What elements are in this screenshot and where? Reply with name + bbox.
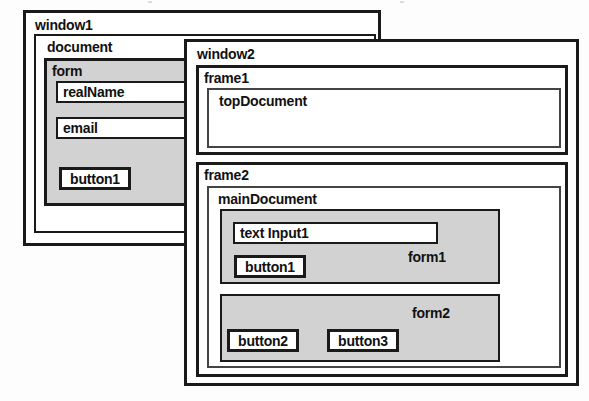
form2-button3[interactable]: button3 [327, 329, 399, 352]
scan-speckle [148, 1, 152, 3]
form2-button3-label: button3 [330, 333, 396, 349]
email-input-label: email [63, 120, 98, 136]
document-label: document [47, 39, 112, 55]
form1-button1[interactable]: button1 [234, 255, 306, 278]
form2-button2[interactable]: button2 [227, 329, 299, 352]
form1-label: form1 [408, 249, 446, 265]
form2-button2-label: button2 [230, 333, 296, 349]
text-input1-label: text Input1 [240, 225, 309, 241]
realname-input-label: realName [63, 84, 124, 100]
frame2-box[interactable]: frame2 mainDocument form1 text Input1 bu… [196, 162, 568, 377]
form1-button1-label: button1 [237, 259, 303, 275]
form1-box[interactable]: form1 text Input1 button1 [220, 209, 500, 284]
frame1-label: frame1 [204, 70, 249, 86]
frame1-box[interactable]: frame1 topDocument [196, 65, 568, 155]
form-label: form [52, 63, 82, 79]
form2-box[interactable]: form2 button2 button3 [220, 294, 500, 362]
text-input1[interactable]: text Input1 [233, 222, 438, 244]
topdocument-box[interactable]: topDocument [207, 88, 561, 148]
form2-label: form2 [412, 305, 450, 321]
frame2-label: frame2 [204, 167, 249, 183]
window2-box[interactable]: window2 frame1 topDocument frame2 mainDo… [184, 39, 579, 386]
window2-label: window2 [197, 46, 255, 62]
maindocument-box[interactable]: mainDocument form1 text Input1 button1 f… [207, 186, 561, 368]
maindocument-label: mainDocument [218, 191, 317, 207]
window1-form-button1-label: button1 [62, 171, 128, 187]
window1-label: window1 [35, 17, 93, 33]
scan-speckle [400, 1, 404, 3]
diagram-canvas: window1 document form realName email but… [0, 0, 589, 401]
topdocument-label: topDocument [219, 93, 307, 109]
window1-form-button1[interactable]: button1 [59, 167, 131, 190]
